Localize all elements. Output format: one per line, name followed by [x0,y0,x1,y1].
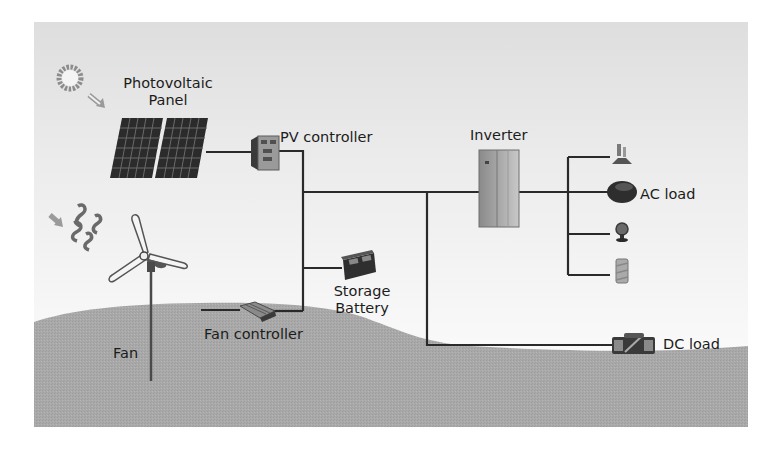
pv-controller-label: PV controller [280,129,372,146]
inverter-cabinet-icon [479,150,519,227]
pv-panel-label-line1: Photovoltaic [113,75,223,92]
controller-box-icon [251,136,279,170]
rice-cooker-icon [607,181,637,203]
dc-load-label: DC load [663,336,720,353]
storage-battery-label: Storage Battery [330,283,394,317]
ac-load-label: AC load [640,186,695,203]
diagram-canvas [0,0,779,454]
fan-appliance-icon [616,223,628,242]
hybrid-power-system-diagram: Photovoltaic Panel PV controller Inverte… [0,0,779,454]
fan-label: Fan [113,345,138,362]
pv-panel-label: Photovoltaic Panel [113,75,223,109]
storage-battery-label-line2: Battery [330,300,394,317]
inverter-label: Inverter [470,127,528,144]
fan-controller-label: Fan controller [204,326,303,343]
pv-panel-label-line2: Panel [113,92,223,109]
storage-battery-label-line1: Storage [330,283,394,300]
heater-icon [616,259,628,283]
